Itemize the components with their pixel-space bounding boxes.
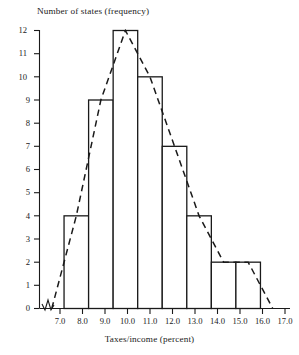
histogram-bar xyxy=(138,77,163,309)
histogram-bars xyxy=(64,31,260,309)
y-tick-label: 6 xyxy=(14,164,30,174)
y-axis-title: Number of states (frequency) xyxy=(37,6,149,16)
chart-canvas xyxy=(0,0,299,355)
y-tick-label: 3 xyxy=(14,234,30,244)
y-tick-label: 1 xyxy=(14,280,30,290)
y-tick-label: 8 xyxy=(14,118,30,128)
histogram-bar xyxy=(64,216,89,309)
y-tick-label: 5 xyxy=(14,187,30,197)
y-tick-label: 2 xyxy=(14,257,30,267)
histogram-bar xyxy=(162,146,187,308)
y-tick-label: 4 xyxy=(14,211,30,221)
y-axis-ticks xyxy=(34,31,40,309)
histogram-bar xyxy=(236,262,261,308)
histogram-chart: Number of states (frequency) Taxes/incom… xyxy=(0,0,299,355)
y-tick-label: 12 xyxy=(11,25,27,35)
histogram-bar xyxy=(113,31,138,309)
y-tick-label: 9 xyxy=(14,95,30,105)
y-tick-label: 7 xyxy=(14,141,30,151)
histogram-bar xyxy=(187,216,212,309)
y-tick-label: 0 xyxy=(14,303,30,313)
x-tick-label: 17.0 xyxy=(270,316,299,326)
histogram-bar xyxy=(211,262,236,308)
y-tick-label: 11 xyxy=(11,48,27,58)
histogram-bar xyxy=(89,100,114,309)
y-tick-label: 10 xyxy=(11,72,27,82)
x-axis-title: Taxes/income (percent) xyxy=(0,334,299,344)
x-axis-ticks xyxy=(60,309,285,315)
